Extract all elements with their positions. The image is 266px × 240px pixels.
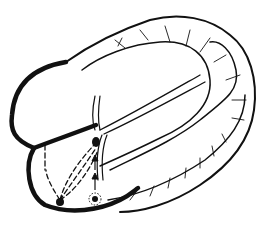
outer-wall: [66, 16, 255, 212]
atrium-septum: [34, 125, 96, 148]
septum-line-2: [99, 96, 101, 130]
heart-diagram: Heart conduction system line drawing: [0, 0, 266, 240]
apex-node: [56, 198, 64, 206]
right-atrium-wall: [12, 62, 66, 148]
sa-node: [92, 196, 98, 202]
heart-drawing: [0, 0, 266, 240]
av-node: [92, 137, 100, 147]
septum-lower-2: [102, 135, 107, 180]
inner-wall-lower: [110, 42, 237, 170]
inner-wall-bottom: [108, 95, 245, 200]
bundle-branches: [46, 145, 98, 200]
inner-wall-upper: [82, 42, 210, 166]
